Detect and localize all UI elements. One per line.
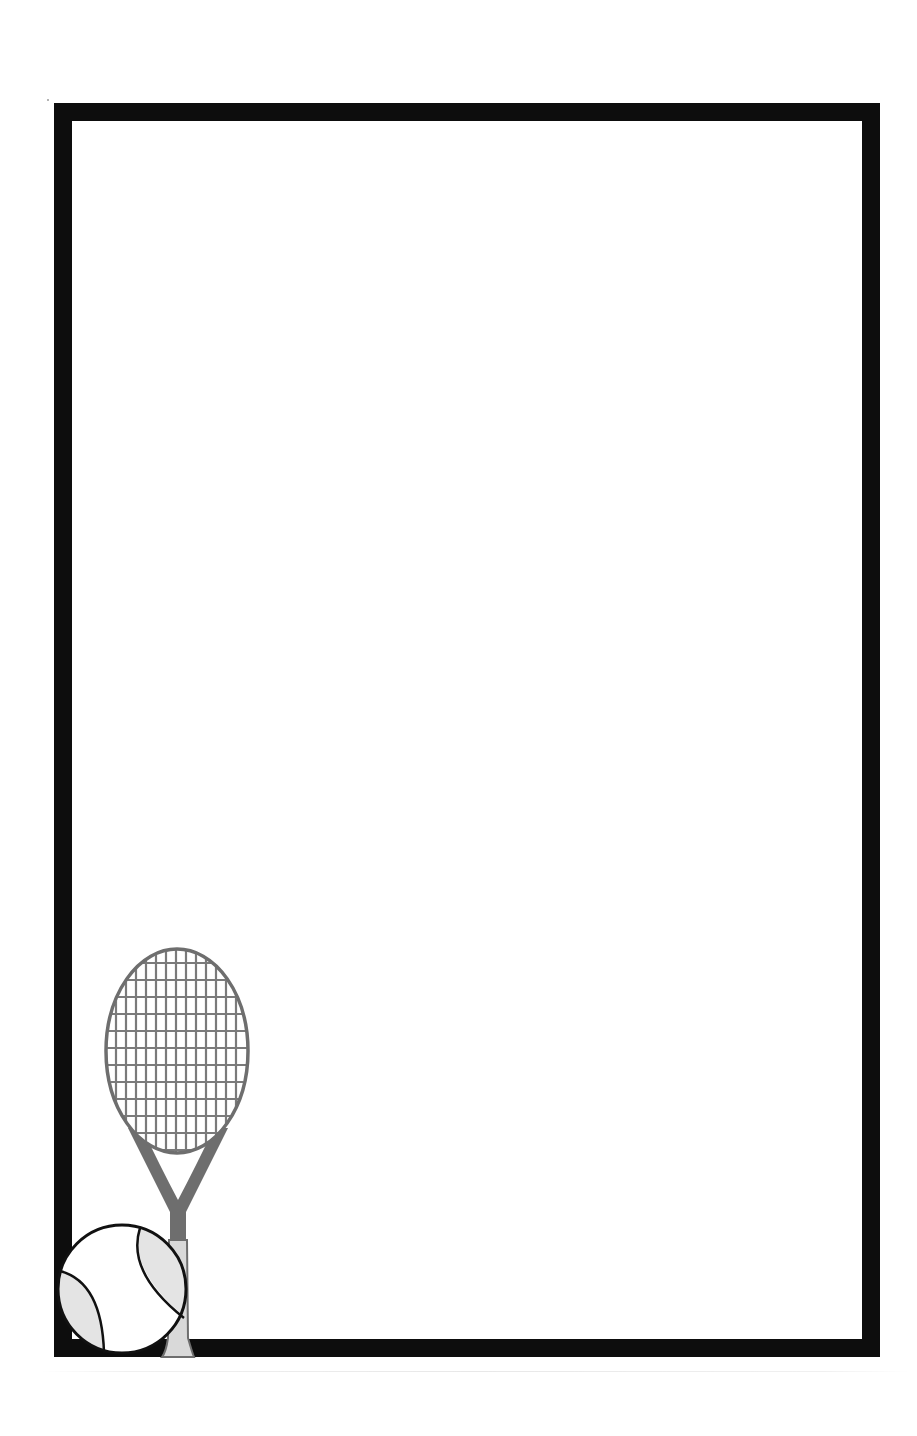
stationery-page [0, 0, 917, 1436]
writing-area[interactable] [72, 121, 862, 1338]
scan-speck [47, 99, 49, 101]
scan-bleed-line [40, 1371, 910, 1372]
